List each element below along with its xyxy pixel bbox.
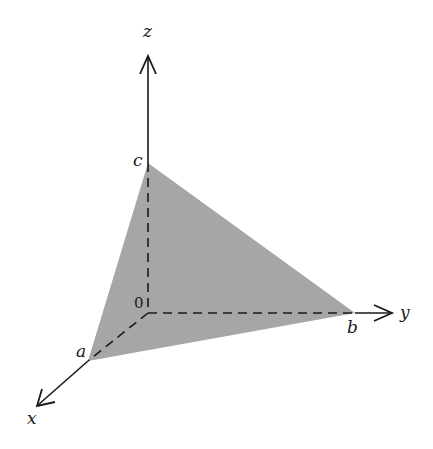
intercept-b-label: b xyxy=(347,317,358,337)
intercept-a-label: a xyxy=(76,341,86,361)
plane-triangle xyxy=(88,163,355,361)
intercept-c-label: c xyxy=(133,150,143,170)
z-axis-label: z xyxy=(142,21,153,41)
y-axis-label: y xyxy=(399,302,410,322)
diagram-canvas: z y x c b a 0 xyxy=(0,0,433,449)
origin-label: 0 xyxy=(134,294,144,312)
x-axis-label: x xyxy=(27,408,37,428)
x-axis-solid xyxy=(38,361,88,405)
